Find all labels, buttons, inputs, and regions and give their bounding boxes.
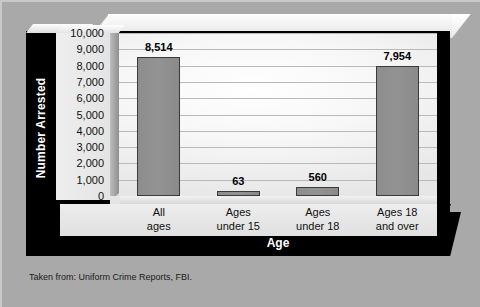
bar (137, 57, 180, 196)
y-axis-title-text: Number Arrested (34, 77, 48, 178)
bars-layer: 8,514635607,954 (119, 33, 437, 196)
y-axis-tick-label: 0 (98, 190, 104, 202)
bar-value-label: 63 (198, 175, 278, 187)
x-category-label-line: under 15 (199, 219, 279, 233)
bar (217, 191, 260, 196)
x-category-label-line: ages (119, 219, 199, 233)
x-axis-title: Age (119, 236, 437, 250)
y-axis-tick-label: 1,000 (76, 174, 104, 186)
y-axis-tick-label: 10,000 (70, 27, 104, 39)
y-axis-tick-label: 8,000 (76, 60, 104, 72)
x-category-label-line: and over (358, 219, 438, 233)
y-axis-tick-label: 6,000 (76, 92, 104, 104)
x-category-label-line: Ages (199, 205, 279, 219)
y-axis-title: Number Arrested (26, 40, 56, 215)
x-category-label: Agesunder 15 (199, 205, 279, 233)
bar (296, 187, 339, 196)
plot-floor (119, 196, 437, 204)
y-axis-tick-label: 3,000 (76, 141, 104, 153)
x-category-label: Ages 18and over (358, 205, 438, 233)
source-caption: Taken from: Uniform Crime Reports, FBI. (29, 272, 192, 282)
y-axis-tick-label: 7,000 (76, 76, 104, 88)
y-axis-tick-label: 9,000 (76, 43, 104, 55)
x-category-label: Agesunder 18 (278, 205, 358, 233)
x-category-label-line: Ages (278, 205, 358, 219)
bar-value-label: 8,514 (119, 41, 199, 53)
bar-chart-figure: Number Arrested 10,0009,0008,0007,0006,0… (0, 0, 480, 307)
y-axis-tick-label: 2,000 (76, 157, 104, 169)
bar-value-label: 7,954 (357, 50, 437, 62)
x-category-label-line: under 18 (278, 219, 358, 233)
plot-floor-left-corner (110, 196, 120, 204)
x-category-label: Allages (119, 205, 199, 233)
y-axis-tick-label: 5,000 (76, 109, 104, 121)
bar-value-label: 560 (278, 171, 358, 183)
x-category-label-line: All (119, 205, 199, 219)
x-axis-category-labels: AllagesAgesunder 15Agesunder 18Ages 18an… (119, 205, 437, 235)
bar (376, 66, 419, 196)
y-axis-tick-label: 4,000 (76, 125, 104, 137)
y-axis-tick-labels: 10,0009,0008,0007,0006,0005,0004,0003,00… (56, 33, 108, 200)
y-tick-strip-side-face (110, 33, 119, 200)
x-category-label-line: Ages 18 (358, 205, 438, 219)
